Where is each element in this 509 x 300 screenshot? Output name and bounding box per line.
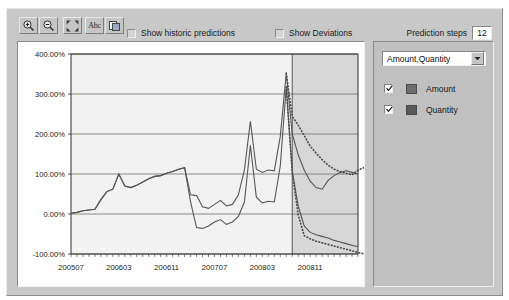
- fit-to-window-button[interactable]: [63, 17, 82, 34]
- zoom-out-icon: [42, 19, 55, 32]
- checkbox-box: [127, 29, 136, 38]
- y-tick-label: -100.00%: [32, 250, 65, 259]
- x-tick-label: 200707: [202, 263, 227, 272]
- y-tick-label: 400.00%: [35, 50, 65, 59]
- abc-labels-button[interactable]: Abc: [85, 17, 104, 34]
- chart-panel[interactable]: 400.00%300.00%200.00%100.00%0.00%-100.00…: [17, 41, 365, 287]
- legend-label: Amount: [426, 84, 455, 94]
- series-legend: AmountQuantity: [384, 80, 489, 122]
- show-deviations-checkbox[interactable]: Show Deviations: [275, 28, 352, 38]
- zoom-out-button[interactable]: [39, 17, 58, 34]
- copy-chart-button[interactable]: [105, 17, 124, 34]
- y-tick-label: 100.00%: [35, 170, 65, 179]
- x-tick-label: 200803: [250, 263, 275, 272]
- check-icon: [386, 85, 393, 92]
- show-deviations-label: Show Deviations: [289, 28, 352, 38]
- y-tick-label: 0.00%: [43, 210, 65, 219]
- x-tick-label: 200811: [298, 263, 323, 272]
- prediction-line-chart: 400.00%300.00%200.00%100.00%0.00%-100.00…: [18, 42, 364, 286]
- check-icon: [386, 106, 393, 113]
- forecast-region: [292, 54, 358, 254]
- y-tick-label: 300.00%: [35, 90, 65, 99]
- legend-label: Quantity: [426, 105, 458, 115]
- legend-checkbox[interactable]: [384, 84, 393, 93]
- toolbar: Abc Show historic predictions Show Devia…: [7, 9, 504, 39]
- x-tick-label: 200603: [106, 263, 131, 272]
- series-side-panel: Amount,Quantity AmountQuantity: [373, 41, 494, 287]
- show-historic-predictions-checkbox[interactable]: Show historic predictions: [127, 28, 235, 38]
- zoom-in-icon: [22, 19, 35, 32]
- legend-checkbox[interactable]: [384, 105, 393, 114]
- checkbox-box: [275, 29, 284, 38]
- legend-color-swatch: [406, 105, 417, 115]
- legend-item-amount[interactable]: Amount: [384, 80, 489, 97]
- prediction-steps-input[interactable]: 12: [472, 26, 492, 40]
- prediction-chart-window: Abc Show historic predictions Show Devia…: [6, 8, 503, 296]
- series-selector-dropdown[interactable]: Amount,Quantity: [382, 51, 486, 66]
- zoom-in-button[interactable]: [19, 17, 38, 34]
- abc-labels-icon: Abc: [88, 21, 100, 30]
- prediction-steps-label: Prediction steps: [407, 28, 467, 38]
- copy-chart-icon: [108, 20, 121, 32]
- series-selector-value: Amount,Quantity: [383, 54, 471, 64]
- chevron-down-icon[interactable]: [471, 52, 484, 65]
- x-tick-label: 200611: [154, 263, 179, 272]
- y-tick-label: 200.00%: [35, 130, 65, 139]
- legend-item-quantity[interactable]: Quantity: [384, 101, 489, 118]
- legend-color-swatch: [406, 84, 417, 94]
- prediction-steps-group: Prediction steps 12: [407, 26, 492, 40]
- x-tick-label: 200507: [58, 263, 83, 272]
- show-historic-predictions-label: Show historic predictions: [141, 28, 235, 38]
- fit-to-window-icon: [66, 20, 79, 32]
